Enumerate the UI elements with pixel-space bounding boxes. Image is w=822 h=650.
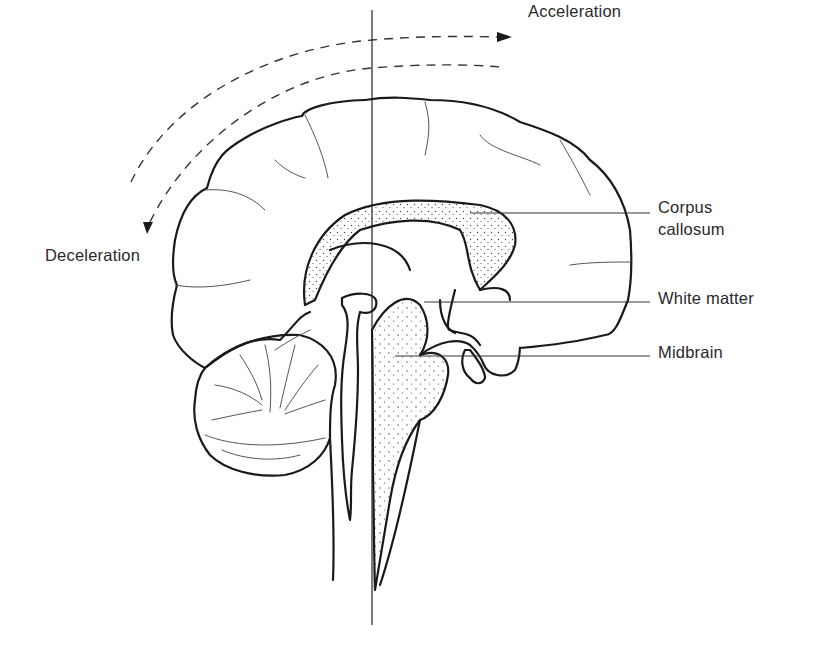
cerebellum-folia [205, 345, 325, 459]
label-corpus-callosum-line1: Corpus [658, 197, 712, 218]
label-corpus-callosum-line2: callosum [658, 219, 725, 240]
spinal-cord-left [330, 438, 334, 580]
label-acceleration: Acceleration [528, 1, 621, 22]
acceleration-arrow [131, 32, 512, 182]
pituitary-lobe [462, 350, 485, 383]
thalamus-outline [440, 288, 510, 345]
label-deceleration: Deceleration [45, 245, 140, 266]
brain-diagram: Acceleration Deceleration Corpus callosu… [0, 0, 822, 650]
deceleration-arrowhead [143, 222, 153, 234]
brain-illustration [0, 0, 822, 650]
cerebellum-outline [194, 335, 336, 476]
inner-dashed-arc [150, 65, 500, 222]
label-midbrain: Midbrain [658, 342, 723, 363]
midbrain-brainstem [372, 299, 448, 590]
brainstem-left-structure [341, 294, 376, 520]
label-white-matter: White matter [658, 288, 754, 309]
